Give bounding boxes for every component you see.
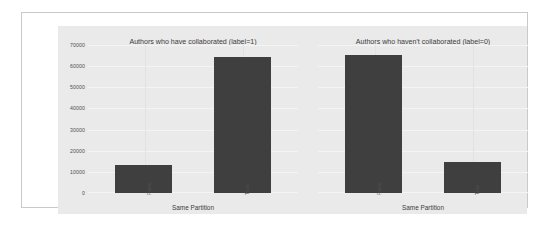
figure-frame: 70000 60000 50000 40000 30000 20000 1000… bbox=[21, 12, 528, 208]
subplot-panel-right: Authors who haven't collaborated (label=… bbox=[318, 26, 528, 214]
gridline-70000 bbox=[88, 45, 298, 46]
bar-left-true bbox=[214, 57, 271, 193]
figure-root: 70000 60000 50000 40000 30000 20000 1000… bbox=[0, 0, 550, 229]
bar-right-true bbox=[444, 162, 501, 193]
y-axis-tick-10000: 10000 bbox=[70, 169, 85, 175]
y-axis-tick-30000: 30000 bbox=[70, 127, 85, 133]
x-axis-label-right: Same Partition bbox=[318, 204, 528, 211]
x-axis-tick-false-left: False bbox=[146, 182, 152, 195]
gridline-70000 bbox=[318, 45, 528, 46]
x-axis-tick-true-left: True bbox=[244, 185, 250, 196]
y-axis: 70000 60000 50000 40000 30000 20000 1000… bbox=[58, 26, 88, 214]
bar-left-false bbox=[115, 165, 172, 193]
x-axis-label-left: Same Partition bbox=[88, 204, 298, 211]
y-axis-tick-0: 0 bbox=[82, 190, 85, 196]
subplot-panel-left: Authors who have collaborated (label=1) … bbox=[88, 26, 298, 214]
bar-right-false bbox=[345, 55, 402, 193]
x-axis-tick-true-right: True bbox=[474, 185, 480, 196]
y-axis-tick-40000: 40000 bbox=[70, 105, 85, 111]
plot-area-right bbox=[318, 45, 528, 193]
y-axis-tick-70000: 70000 bbox=[70, 42, 85, 48]
plot-area-left bbox=[88, 45, 298, 193]
y-axis-tick-50000: 50000 bbox=[70, 84, 85, 90]
x-axis-tick-false-right: False bbox=[376, 182, 382, 195]
y-axis-tick-60000: 60000 bbox=[70, 63, 85, 69]
y-axis-tick-20000: 20000 bbox=[70, 148, 85, 154]
